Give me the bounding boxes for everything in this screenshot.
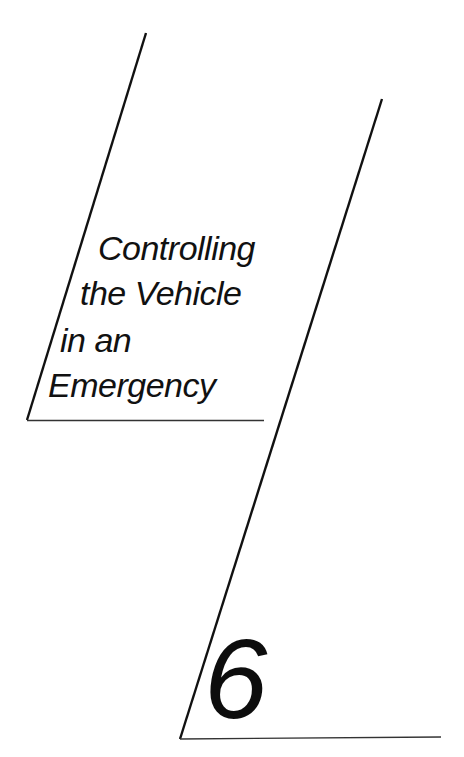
- chapter-title-line-4: Emergency: [48, 368, 215, 402]
- chapter-title-line-3: in an: [60, 323, 131, 357]
- chapter-title-line-2: the Vehicle: [80, 276, 241, 310]
- chapter-title-line-1: Controlling: [98, 231, 255, 265]
- chapter-number: 6: [204, 622, 267, 736]
- upper-slanted-rule: [27, 33, 146, 420]
